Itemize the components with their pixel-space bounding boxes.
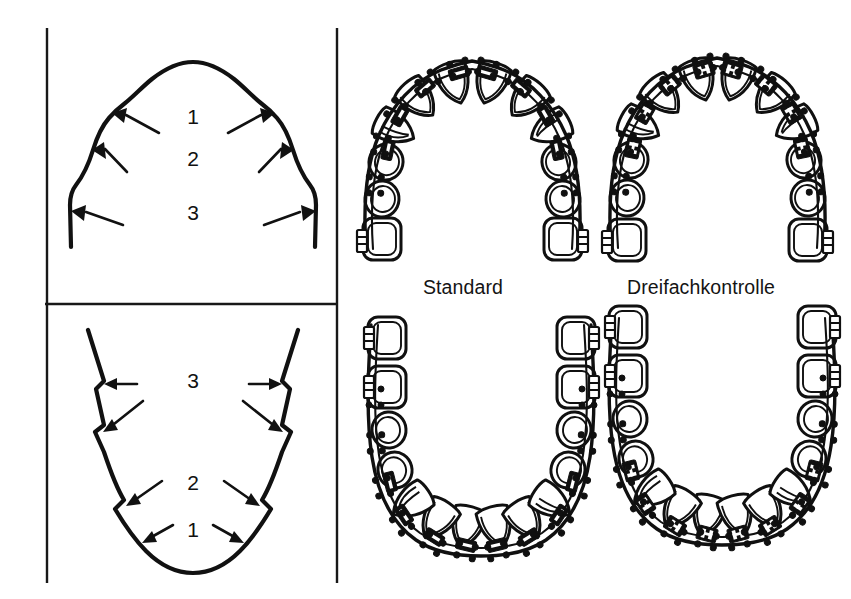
arrow-lower-right-2 bbox=[224, 481, 260, 506]
arrow-upper-right-3 bbox=[264, 205, 316, 225]
arrow-lower-right-1 bbox=[213, 525, 244, 543]
zone-label-upper-3: 3 bbox=[187, 201, 199, 224]
arrow-lower-left-3a bbox=[104, 378, 137, 390]
arch-lower-standard bbox=[364, 317, 599, 562]
zone-label-lower-1: 1 bbox=[187, 518, 199, 541]
arrow-lower-right-3a bbox=[249, 378, 282, 390]
arrow-lower-left-1 bbox=[142, 525, 173, 543]
maxillary-arch-zones-panel: 1 2 3 bbox=[70, 62, 316, 247]
zone-label-upper-2: 2 bbox=[187, 147, 199, 170]
orthodontic-figure: 1 2 3 bbox=[0, 0, 851, 599]
zone-label-lower-2: 2 bbox=[187, 471, 199, 494]
arrow-upper-right-1 bbox=[228, 108, 275, 133]
arrow-lower-left-2 bbox=[126, 481, 162, 506]
arrow-lower-right-3b bbox=[243, 401, 283, 432]
caption-dreifachkontrolle: Dreifachkontrolle bbox=[627, 276, 775, 299]
arch-lower-dreifachkontrolle bbox=[605, 306, 840, 551]
figure-canvas: 1 2 3 bbox=[0, 0, 851, 599]
zone-label-upper-1: 1 bbox=[187, 105, 199, 128]
arrow-upper-right-2 bbox=[259, 142, 294, 172]
arch-upper-standard bbox=[357, 56, 588, 260]
arrow-upper-left-3 bbox=[71, 205, 123, 225]
caption-standard: Standard bbox=[423, 276, 503, 299]
zone-label-lower-3: 3 bbox=[187, 369, 199, 392]
arrow-upper-left-2 bbox=[92, 142, 127, 172]
arrow-upper-left-1 bbox=[112, 108, 159, 133]
mandibular-arch-zones-panel: 3 2 1 bbox=[88, 330, 298, 573]
arch-upper-dreifachkontrolle bbox=[602, 52, 833, 261]
arrow-lower-left-3b bbox=[103, 401, 143, 432]
